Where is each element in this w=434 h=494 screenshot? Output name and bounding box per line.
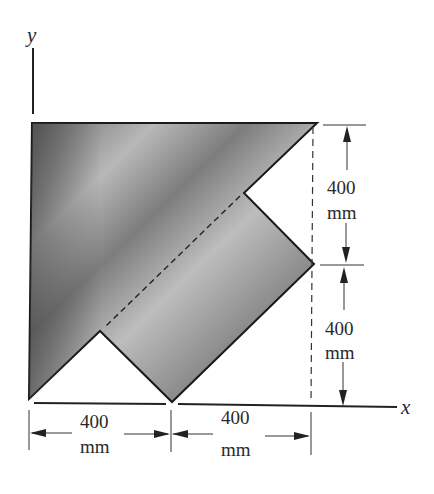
dim-right-bottom-unit: mm (325, 342, 355, 363)
diagram-canvas: y x 400 mm 400 mm 400 (0, 0, 434, 494)
dimension-right-bottom: 400 mm (325, 267, 355, 406)
x-axis (178, 404, 397, 407)
composite-plate (29, 123, 317, 402)
dimension-bottom-left: 400 mm (30, 411, 170, 457)
dim-bottom-right-unit: mm (221, 439, 251, 460)
dim-bottom-right-value: 400 (221, 407, 250, 428)
dim-right-bottom-value: 400 (325, 318, 354, 339)
y-axis-label: y (25, 23, 37, 47)
dimension-right-top: 400 mm (327, 126, 357, 263)
x-axis-label: x (400, 395, 411, 419)
x-axis-segment-left (34, 403, 166, 404)
dim-bottom-left-unit: mm (80, 436, 110, 457)
dim-right-top-unit: mm (327, 202, 357, 223)
dimension-bottom-right: 400 mm (172, 407, 310, 460)
dim-bottom-left-value: 400 (80, 411, 109, 432)
dim-right-top-value: 400 (327, 177, 356, 198)
